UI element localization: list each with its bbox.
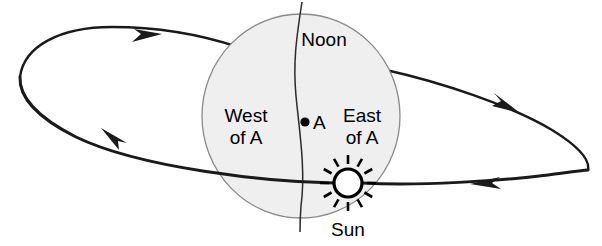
point-a-marker bbox=[300, 117, 309, 126]
orbit-far-arc-right bbox=[386, 70, 588, 170]
label-east-of-a-line2: of A bbox=[346, 127, 379, 148]
sun-body bbox=[334, 169, 362, 197]
orbit-arrow-bottom-right bbox=[470, 177, 501, 189]
orbit-arrow-top-left bbox=[132, 29, 162, 42]
orbit-near-arc-right bbox=[362, 170, 588, 184]
label-sun: Sun bbox=[331, 219, 365, 240]
label-west-of-a-line2: of A bbox=[230, 127, 263, 148]
label-west-of-a-line1: West bbox=[225, 105, 269, 126]
orbit-arrow-left bbox=[101, 128, 127, 150]
orbit-diagram: Noon West of A East of A A bbox=[0, 0, 602, 246]
label-east-of-a-line1: East bbox=[343, 105, 382, 126]
diagram-canvas: Noon West of A East of A A bbox=[0, 0, 602, 246]
orbit-far-arc-left bbox=[20, 27, 238, 77]
label-noon: Noon bbox=[301, 29, 346, 50]
label-point-a: A bbox=[313, 112, 326, 133]
